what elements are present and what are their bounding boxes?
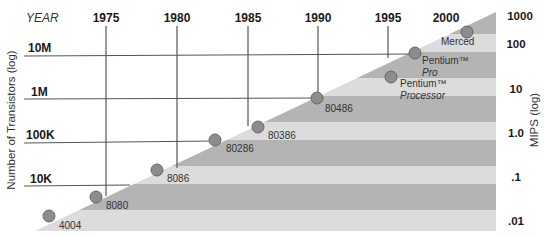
y-right-tick-100: 100 xyxy=(506,38,525,50)
label-pentium-pro: Pentium™ xyxy=(422,55,469,66)
point-pentium xyxy=(385,71,397,83)
label-4004: 4004 xyxy=(59,220,82,231)
x-tick-2000: 2000 xyxy=(433,11,460,25)
x-tick-1975: 1975 xyxy=(93,11,120,25)
y-right-tick-0-01: .01 xyxy=(508,215,525,227)
y-right-tick-1000: 1000 xyxy=(507,10,533,22)
transistor-mips-chart: YEAR 1975 1980 1985 1990 1995 2000 10M 1… xyxy=(0,0,545,237)
point-8086 xyxy=(151,164,163,176)
label-80486: 80486 xyxy=(325,103,353,114)
y-left-tick-10k: 10K xyxy=(30,172,52,186)
y-right-tick-10: 10 xyxy=(510,83,523,95)
y-left-tick-100k: 100K xyxy=(26,128,55,142)
label-8080: 8080 xyxy=(106,200,129,211)
x-tick-1990: 1990 xyxy=(305,11,332,25)
point-pentium-pro xyxy=(409,47,421,59)
label-pentium-sub: Processor xyxy=(400,90,446,101)
point-4004 xyxy=(43,210,55,222)
label-pentium: Pentium™ xyxy=(400,78,447,89)
y-right-axis-title: MIPS (log) xyxy=(528,93,540,147)
x-tick-1980: 1980 xyxy=(164,11,191,25)
point-80286 xyxy=(209,134,221,146)
x-tick-1985: 1985 xyxy=(235,11,262,25)
y-left-axis-title: Number of Transistors (log) xyxy=(5,50,17,189)
point-80386 xyxy=(252,121,264,133)
x-axis-title: YEAR xyxy=(26,11,59,25)
y-right-tick-0-1: .1 xyxy=(511,171,521,183)
label-merced: Merced xyxy=(441,36,474,47)
y-left-tick-10m: 10M xyxy=(28,41,51,55)
y-left-tick-1m: 1M xyxy=(31,85,48,99)
label-80386: 80386 xyxy=(268,130,296,141)
point-80486 xyxy=(311,92,323,104)
x-tick-1995: 1995 xyxy=(375,11,402,25)
label-pentium-pro-sub: Pro xyxy=(422,67,438,78)
point-8080 xyxy=(90,191,102,203)
label-80286: 80286 xyxy=(226,143,254,154)
y-right-tick-1: 1.0 xyxy=(508,127,524,139)
label-8086: 8086 xyxy=(167,173,190,184)
